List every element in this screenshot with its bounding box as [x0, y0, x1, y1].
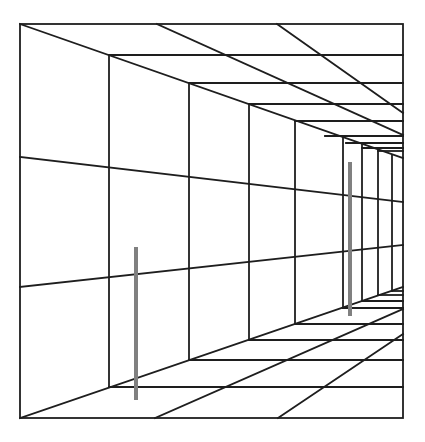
- ceiling-grid: [20, 24, 403, 158]
- floor-grid: [20, 287, 403, 418]
- corridor-illusion-figure: [0, 0, 425, 442]
- corridor-drawing: [0, 0, 425, 442]
